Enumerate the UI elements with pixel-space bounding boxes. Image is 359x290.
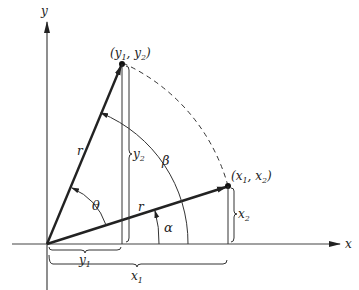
x1-brace <box>49 255 227 267</box>
rotation-diagram: x y y2 x2 y1 x1 α θ β r r (y1, y2) (x1, … <box>0 0 359 290</box>
theta-label: θ <box>92 198 100 213</box>
x-axis-label: x <box>345 237 352 251</box>
alpha-label: α <box>164 220 173 235</box>
y1-label: y1 <box>78 253 91 269</box>
y2-label: y2 <box>132 147 145 163</box>
alpha-arc <box>155 211 159 244</box>
theta-arc <box>72 188 106 225</box>
vector-rotated <box>47 66 121 244</box>
y-axis-label: y <box>40 4 48 18</box>
rotation-dashed-arc <box>125 64 228 186</box>
x2-label: x2 <box>238 207 250 223</box>
x2-brace <box>231 188 237 242</box>
original-point-label: (x1, x2) <box>231 169 272 185</box>
vector-original <box>47 187 226 244</box>
beta-label: β <box>161 153 170 168</box>
rotated-point-label: (y1, y2) <box>110 46 151 62</box>
y2-brace <box>126 66 132 242</box>
x1-label: x1 <box>131 269 143 285</box>
beta-arc <box>101 113 188 244</box>
